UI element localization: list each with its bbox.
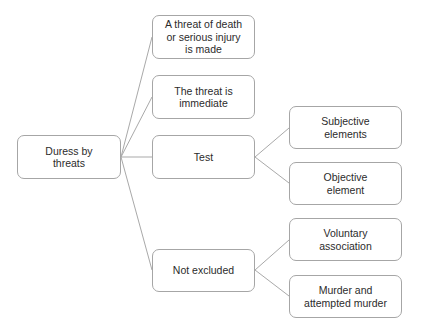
node-label: Not excluded <box>173 264 234 277</box>
duress-tree-diagram: Duress by threats A threat of death or s… <box>0 0 422 335</box>
connector-root-threat-death <box>121 37 152 157</box>
node-label: Duress by threats <box>40 145 98 170</box>
node-objective-element: Objective element <box>289 162 402 205</box>
node-label: Test <box>194 151 213 164</box>
connector-root-threat-immediate <box>121 97 152 157</box>
node-test: Test <box>152 135 255 179</box>
node-duress-by-threats: Duress by threats <box>17 135 121 179</box>
node-label: A threat of death or serious injury is m… <box>162 18 245 56</box>
node-threat-immediate: The threat is immediate <box>152 75 255 119</box>
node-label: Objective element <box>320 171 371 196</box>
node-not-excluded: Not excluded <box>152 249 255 292</box>
node-voluntary-association: Voluntary association <box>289 218 402 261</box>
connector-not-excluded-voluntary <box>255 240 289 270</box>
node-label: Subjective elements <box>320 115 371 140</box>
node-subjective-elements: Subjective elements <box>289 106 402 149</box>
connector-not-excluded-murder <box>255 270 289 296</box>
node-label: Voluntary association <box>314 227 377 252</box>
node-label: The threat is immediate <box>173 85 234 110</box>
connector-test-objective <box>255 157 289 183</box>
connector-test-subjective <box>255 128 289 157</box>
connector-root-not-excluded <box>121 157 152 270</box>
node-label: Murder and attempted murder <box>296 284 395 309</box>
node-murder-attempted-murder: Murder and attempted murder <box>289 275 402 318</box>
node-threat-of-death: A threat of death or serious injury is m… <box>152 15 255 59</box>
